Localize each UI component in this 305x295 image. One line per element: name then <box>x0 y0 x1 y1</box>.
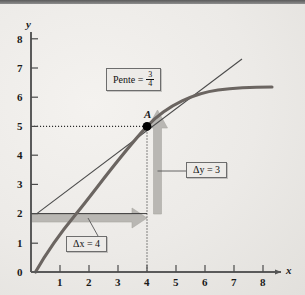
graph-canvas <box>0 0 305 295</box>
x-tick-7: 7 <box>231 276 237 288</box>
y-tick-7: 7 <box>17 62 23 74</box>
x-tick-1: 1 <box>57 276 63 288</box>
x-tick-2: 2 <box>86 276 92 288</box>
slope-callout: Pente = 3 4 <box>106 68 161 91</box>
origin-label: 0 <box>17 266 23 278</box>
slope-numerator: 3 <box>146 71 154 79</box>
delta-x-callout-text: Δx = 4 <box>73 239 100 249</box>
x-axis-label: x <box>286 264 292 276</box>
x-tick-5: 5 <box>173 276 179 288</box>
delta-x-arrow <box>31 208 147 228</box>
slope-denominator: 4 <box>146 79 154 88</box>
point-a-marker <box>143 122 152 131</box>
x-tick-3: 3 <box>115 276 121 288</box>
y-tick-8: 8 <box>17 33 23 45</box>
figure-container: y x 0 1 2 3 4 5 6 7 8 1 2 3 4 5 6 7 8 A … <box>0 0 305 295</box>
y-tick-3: 3 <box>17 178 23 190</box>
x-axis-ticks <box>60 265 263 272</box>
y-tick-2: 2 <box>17 207 23 219</box>
x-tick-8: 8 <box>260 276 266 288</box>
slope-callout-text: Pente = <box>113 75 143 85</box>
delta-y-callout: Δy = 3 <box>186 162 227 178</box>
y-tick-6: 6 <box>17 91 23 103</box>
x-tick-6: 6 <box>202 276 208 288</box>
y-axis-ticks <box>31 39 38 243</box>
y-tick-5: 5 <box>17 120 23 132</box>
y-axis-label: y <box>26 18 31 30</box>
y-tick-1: 1 <box>17 237 23 249</box>
slope-fraction: 3 4 <box>146 71 154 88</box>
point-a-label: A <box>144 108 151 120</box>
y-tick-4: 4 <box>17 149 23 161</box>
delta-x-callout: Δx = 4 <box>66 236 107 252</box>
delta-y-callout-text: Δy = 3 <box>193 165 220 175</box>
x-tick-4: 4 <box>144 276 150 288</box>
